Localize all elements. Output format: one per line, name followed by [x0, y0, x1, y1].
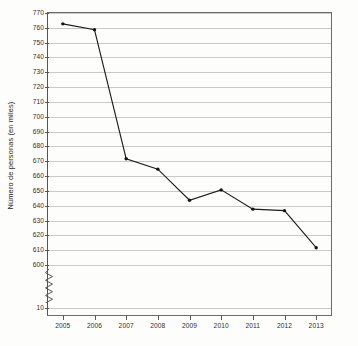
- data-point: [156, 167, 159, 170]
- data-point: [219, 188, 222, 191]
- y-tick-label: 730: [33, 68, 44, 75]
- x-tick-label: 2008: [150, 322, 165, 329]
- y-tick-label: 680: [33, 142, 44, 149]
- y-tick-label: 690: [33, 127, 44, 134]
- y-tick-label: 600: [33, 261, 44, 268]
- data-point: [124, 157, 127, 160]
- x-tick-mark: [63, 315, 64, 320]
- series-line: [63, 24, 316, 248]
- x-tick-mark: [253, 315, 254, 320]
- x-tick-label: 2006: [87, 322, 102, 329]
- x-tick-label: 2010: [214, 322, 229, 329]
- data-point: [61, 22, 64, 25]
- x-tick-label: 2011: [246, 322, 261, 329]
- y-tick-label: 660: [33, 172, 44, 179]
- y-tick-label: 10: [36, 304, 44, 311]
- x-tick-mark: [158, 315, 159, 320]
- y-tick-label: 620: [33, 231, 44, 238]
- y-axis-tick-labels: 7707607507407307207107006906806706606506…: [20, 0, 47, 346]
- x-tick-mark: [95, 315, 96, 320]
- y-axis-title: Número de personas (en miles): [0, 0, 22, 310]
- line-chart: Número de personas (en miles) 7707607507…: [0, 0, 358, 346]
- y-tick-label: 630: [33, 216, 44, 223]
- x-tick-label: 2009: [182, 322, 197, 329]
- y-tick-label: 760: [33, 23, 44, 30]
- y-tick-label: 700: [33, 112, 44, 119]
- x-tick-label: 2012: [277, 322, 292, 329]
- y-tick-label: 650: [33, 186, 44, 193]
- x-tick-mark: [316, 315, 317, 320]
- x-tick-mark: [190, 315, 191, 320]
- data-point: [188, 199, 191, 202]
- y-tick-label: 670: [33, 157, 44, 164]
- data-point: [314, 246, 317, 249]
- y-tick-label: 720: [33, 83, 44, 90]
- y-tick-label: 740: [33, 53, 44, 60]
- data-series: [47, 12, 332, 315]
- x-tick-mark: [221, 315, 222, 320]
- x-tick-label: 2013: [309, 322, 324, 329]
- y-tick-label: 750: [33, 38, 44, 45]
- data-point: [93, 28, 96, 31]
- data-point: [251, 207, 254, 210]
- x-tick-label: 2005: [55, 322, 70, 329]
- x-tick-label: 2007: [119, 322, 134, 329]
- y-axis-title-text: Número de personas (en miles): [7, 101, 16, 209]
- y-tick-label: 710: [33, 97, 44, 104]
- y-tick-label: 640: [33, 201, 44, 208]
- y-tick-label: 610: [33, 246, 44, 253]
- x-tick-mark: [285, 315, 286, 320]
- x-tick-mark: [126, 315, 127, 320]
- y-tick-label: 770: [33, 9, 44, 16]
- series-markers: [61, 22, 318, 249]
- data-point: [283, 209, 286, 212]
